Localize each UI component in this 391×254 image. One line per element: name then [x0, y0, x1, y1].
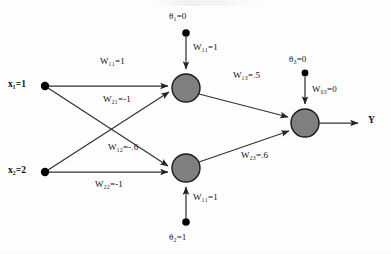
input-node-x2 — [41, 168, 49, 176]
weight-label-w11-bias-bottom: W₁₁=1 — [193, 193, 218, 202]
weight-label-w23-output: W₂₃=.6 — [241, 151, 268, 160]
weight-label-w03-bias: W₀₃=0 — [312, 85, 337, 94]
bias-node-theta3 — [302, 70, 309, 77]
hidden-neuron-2 — [172, 154, 200, 182]
input-label-x1: x₁=1 — [8, 80, 26, 90]
weight-label-w21-input: W₂₁=-1 — [103, 95, 131, 104]
weight-label-w12-input: W₁₂=-.6 — [108, 143, 138, 152]
input-label-x2: x₂=2 — [8, 166, 26, 176]
input-node-x1 — [41, 82, 49, 90]
bias-label-theta2: θ₂=1 — [169, 233, 186, 242]
bias-node-theta1 — [182, 29, 190, 37]
weight-label-w13-output: W₁₃=.5 — [233, 71, 260, 80]
weight-label-w11-input: W₁₁=1 — [100, 57, 125, 66]
bias-label-theta3: θ₃=0 — [289, 55, 306, 64]
edge-h1-to-output — [199, 94, 288, 117]
network-graph-svg — [0, 0, 391, 254]
hidden-neuron-1 — [172, 74, 200, 102]
neural-network-diagram: x₁=1 x₂=2 Y θ₁=0 θ₂=1 θ₃=0 W₁₁=1 W₂₁=-1 … — [0, 0, 391, 254]
weight-label-w22-input: W₂₂=-1 — [95, 180, 123, 189]
weight-label-w11-bias-top: W₁₁=1 — [193, 43, 218, 52]
output-label-y: Y — [368, 116, 375, 126]
output-neuron — [291, 109, 319, 137]
bias-node-theta2 — [182, 218, 190, 226]
bias-label-theta1: θ₁=0 — [169, 12, 186, 21]
